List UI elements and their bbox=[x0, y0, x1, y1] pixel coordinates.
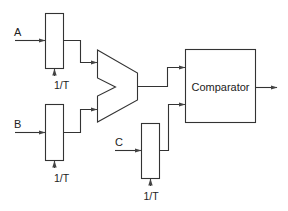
input-c-label: C bbox=[115, 136, 123, 148]
control-a-label: 1/T bbox=[54, 79, 70, 91]
wire-subtractor-to-comparator bbox=[138, 68, 186, 87]
comparator-label: Comparator bbox=[191, 81, 249, 93]
wire-a-to-subtractor bbox=[64, 41, 98, 63]
subtractor-block bbox=[98, 50, 138, 122]
wire-c-to-comparator bbox=[160, 105, 186, 151]
control-c-label: 1/T bbox=[143, 190, 159, 202]
integrator-a-block bbox=[46, 14, 64, 69]
block-diagram: A 1/T B 1/T Comparator C 1/T bbox=[0, 0, 288, 211]
input-b-label: B bbox=[14, 118, 21, 130]
wire-b-to-subtractor bbox=[64, 110, 98, 133]
input-a-label: A bbox=[14, 26, 22, 38]
control-b-label: 1/T bbox=[54, 172, 70, 184]
integrator-c-block bbox=[142, 124, 160, 179]
integrator-b-block bbox=[46, 105, 64, 161]
